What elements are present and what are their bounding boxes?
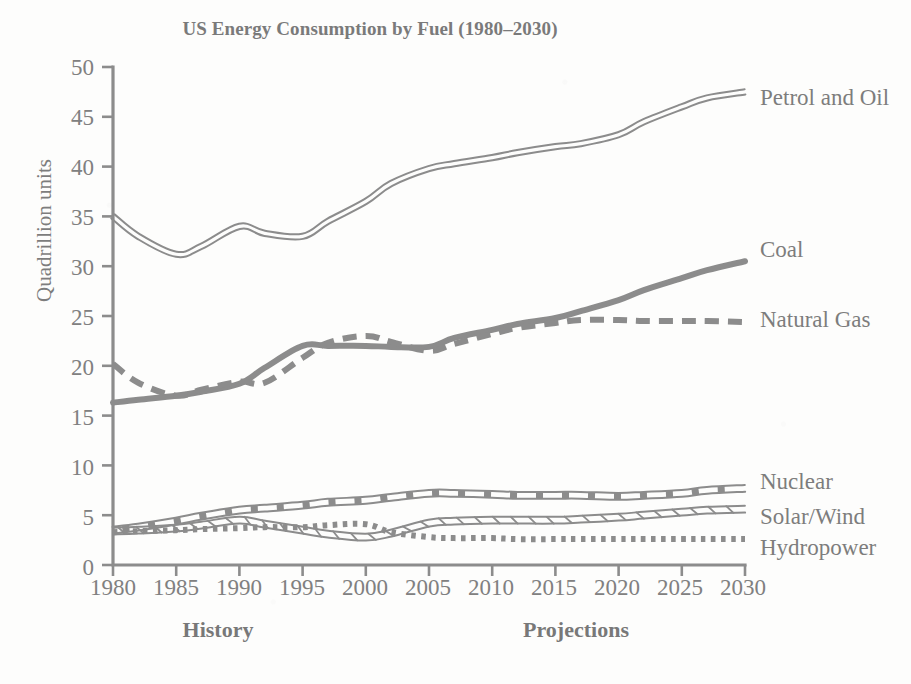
chart-container: US Energy Consumption by Fuel (1980–2030… [0, 0, 911, 684]
series-coal [113, 261, 745, 402]
plot-area [0, 0, 911, 684]
series-natural-gas [113, 320, 745, 396]
series-lines [111, 89, 745, 540]
series-petrol-and-oil [111, 89, 745, 257]
